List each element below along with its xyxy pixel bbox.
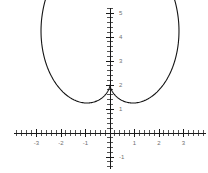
y-tick-label: 5	[119, 10, 123, 16]
axis-lines-group	[14, 8, 205, 169]
x-tick-label: 2	[157, 140, 161, 146]
x-tick-label: 3	[182, 140, 186, 146]
y-tick-label: 3	[119, 58, 123, 64]
x-tick-label: -1	[83, 140, 89, 146]
y-tick-label: 4	[119, 34, 123, 40]
x-tick-label: 1	[133, 140, 137, 146]
polar-curve-plot: -3-2-1123-112345	[0, 0, 208, 173]
plot-canvas: -3-2-1123-112345	[0, 0, 208, 173]
y-tick-label: 1	[119, 106, 123, 112]
y-tick-label: 2	[119, 82, 123, 88]
x-tick-label: -2	[58, 140, 64, 146]
y-tick-label: -1	[119, 154, 125, 160]
x-tick-label: -3	[34, 140, 40, 146]
